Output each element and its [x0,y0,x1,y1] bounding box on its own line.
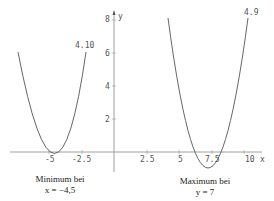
curve-4-9 [168,18,248,168]
caption-right-line1: Maximum bei [160,176,250,187]
x-axis-label: x [260,155,265,164]
y-axis-label: y [118,12,123,21]
caption-right-line2: y = 7 [160,187,250,198]
caption-left-line2: x = −4,5 [20,185,100,196]
y-tick-label: 8 [105,15,110,24]
curve-4-10 [18,52,86,154]
curve-label-4-9: 4.9 [244,8,259,17]
y-tick-label: 4 [105,82,110,91]
caption-left: Minimum bei x = −4,5 [20,174,100,196]
y-tick-label: 2 [105,115,110,124]
x-tick-label: -5 [45,155,55,164]
x-tick-label: -2.5 [72,155,91,164]
x-tick-label: 5 [178,155,183,164]
x-tick-label: 10 [245,155,255,164]
caption-right: Maximum bei y = 7 [160,176,250,198]
caption-left-line1: Minimum bei [20,174,100,185]
y-axis-arrow-icon [113,10,116,15]
x-tick-label: 2.5 [140,155,155,164]
curve-label-4-10: 4.10 [75,41,94,50]
y-tick-label: 6 [105,49,110,58]
chart: -5 -2.5 2.5 5 7.5 10 x 2 4 6 8 y 4.10 4.… [0,0,274,201]
